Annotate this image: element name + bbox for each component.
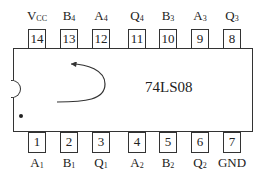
pin-7-label: GND xyxy=(212,155,252,171)
pin-6: 6 xyxy=(191,132,209,153)
pin-4: 4 xyxy=(128,132,146,153)
pin-5: 5 xyxy=(159,132,177,153)
pin-10: 10 xyxy=(159,29,177,49)
pin-11: 11 xyxy=(128,29,146,49)
pin-8-label: Q3 xyxy=(212,8,252,24)
pin-1: 1 xyxy=(28,132,46,153)
pin1-indicator-dot xyxy=(19,114,23,118)
pin-12-label: A4 xyxy=(81,8,121,24)
pin-14: 14 xyxy=(28,29,46,49)
part-number: 74LS08 xyxy=(145,79,193,96)
pin-2: 2 xyxy=(60,132,78,153)
pin-7: 7 xyxy=(223,132,241,153)
pin-3: 3 xyxy=(92,132,110,153)
notch-cover xyxy=(12,81,14,97)
pin-numbering-direction-arrow-icon xyxy=(55,62,115,106)
ic-body xyxy=(13,48,253,132)
pin-13: 13 xyxy=(60,29,78,49)
pin-8: 8 xyxy=(223,29,241,49)
pin-9: 9 xyxy=(191,29,209,49)
pin-12: 12 xyxy=(92,29,110,49)
pin-3-label: Q1 xyxy=(81,155,121,171)
